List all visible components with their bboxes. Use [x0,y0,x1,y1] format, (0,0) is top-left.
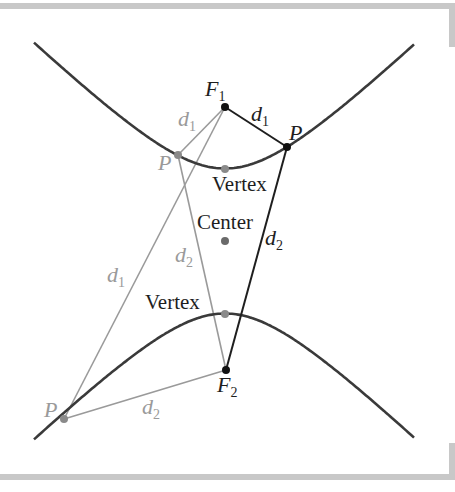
label-f2: F2 [216,372,237,400]
frame-top [0,3,455,9]
frame-right-top [449,3,455,47]
hyperbola-diagram: F1 d1 P d1 P Vertex Center d2 d2 d1 Vert… [0,0,455,492]
label-f1: F1 [204,76,225,104]
label-p-right: P [288,120,302,145]
label-d2-gray-upper: d2 [175,242,193,270]
gray-distance-lines [64,107,226,419]
point-p-upper-left [174,151,182,159]
label-p-lower-left: P [43,397,57,422]
center-point [221,237,229,245]
label-d1-gray-lower: d1 [107,262,125,290]
line-lower-left-p-to-f1 [64,107,225,419]
label-d2-dark: d2 [265,225,283,253]
point-p-lower-left [60,415,68,423]
label-center: Center [197,210,253,234]
diagram-frame: F1 d1 P d1 P Vertex Center d2 d2 d1 Vert… [0,0,455,492]
focus-f1-point [221,103,229,111]
label-p-upper-left: P [157,150,171,175]
label-vertex-top: Vertex [212,172,267,196]
label-d1-gray-upper: d1 [178,106,196,134]
label-d1-dark: d1 [251,101,269,129]
vertex-bottom-point [221,310,229,318]
label-vertex-bottom: Vertex [145,290,200,314]
label-d2-gray-lower: d2 [142,394,160,422]
frame-bottom [0,474,455,480]
frame-right-bottom [449,443,455,480]
